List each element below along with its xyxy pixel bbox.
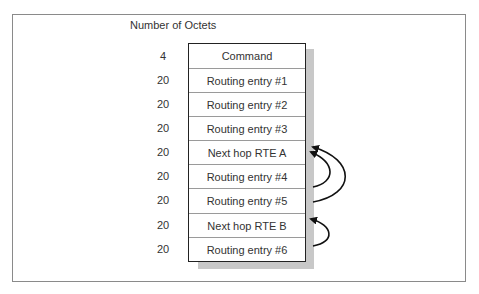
pointer-arrows: [0, 0, 479, 294]
arrow-entry6-to-next-hop-b: [311, 219, 329, 246]
arrow-entry4-to-next-hop-a: [311, 152, 330, 187]
